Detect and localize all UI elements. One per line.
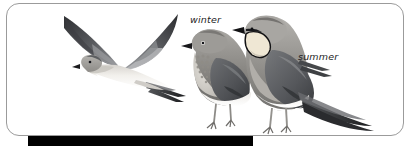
bottom-black-bar [28,136,253,146]
label-winter: winter [190,14,221,25]
bird-plate: winter summer [0,0,412,150]
label-summer: summer [298,51,338,62]
